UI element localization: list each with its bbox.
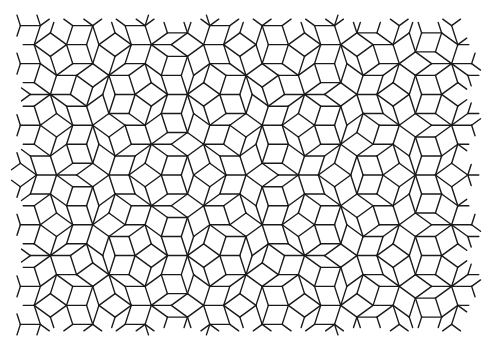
- rhombus-edge: [301, 317, 304, 327]
- rhombus-edge: [438, 317, 441, 327]
- rhombus-edge: [99, 33, 115, 45]
- rhombus-edge: [187, 305, 203, 317]
- rhombus-edge: [204, 286, 210, 305]
- rhombus-edge: [224, 206, 230, 225]
- rhombus-edge: [458, 261, 467, 267]
- rhombus-edge: [468, 237, 471, 247]
- rhombus-edge: [282, 163, 298, 175]
- rhombus-edge: [325, 94, 341, 106]
- rhombus-edge: [220, 75, 226, 94]
- rhombus-edge: [230, 113, 246, 125]
- rhombus-edge: [112, 317, 115, 327]
- rhombus-edge: [435, 113, 451, 125]
- rhombus-edge: [393, 83, 409, 95]
- rhombus-edge: [240, 156, 246, 175]
- rhombus-edge: [288, 33, 304, 45]
- rhombus-edge: [262, 324, 271, 330]
- rhombus-edge: [145, 286, 151, 305]
- rhombus-edge: [282, 305, 288, 324]
- rhombus-edge: [415, 125, 431, 137]
- rhombus-edge: [151, 294, 167, 306]
- rhombus-edge: [164, 317, 167, 327]
- rhombus-edge: [415, 298, 421, 317]
- rhombus-edge: [57, 275, 73, 287]
- rhombus-edge: [409, 94, 415, 113]
- rhombus-edge: [418, 22, 421, 32]
- rhombus-edge: [181, 237, 187, 256]
- rhombus-edge: [187, 294, 203, 306]
- rhombus-edge: [87, 106, 93, 125]
- rhombus-edge: [240, 256, 246, 275]
- rhombus-edge: [93, 286, 99, 305]
- rhombus-edge: [335, 286, 341, 305]
- rhombus-edge: [435, 75, 441, 94]
- rhombus-edge: [70, 244, 86, 256]
- rhombus-edge: [306, 324, 315, 330]
- rhombus-edge: [93, 163, 109, 175]
- rhombus-edge: [129, 225, 145, 237]
- rhombus-edge: [341, 144, 357, 156]
- rhombus-edge: [240, 45, 256, 57]
- rhombus-edge: [282, 144, 288, 163]
- rhombus-edge: [325, 256, 341, 268]
- rhombus-edge: [399, 275, 415, 287]
- rhombus-edge: [224, 194, 240, 206]
- rhombus-edge: [84, 324, 93, 330]
- rhombus-edge: [17, 314, 20, 324]
- rhombus-edge: [210, 113, 226, 125]
- rhombus-edge: [161, 175, 167, 194]
- rhombus-edge: [357, 194, 373, 206]
- rhombus-edge: [184, 22, 187, 32]
- rhombus-edge: [230, 225, 246, 237]
- rhombus-edge: [452, 175, 468, 187]
- rhombus-edge: [335, 125, 341, 144]
- rhombus-edge: [220, 237, 226, 256]
- rhombus-edge: [409, 298, 415, 317]
- rhombus-edge: [210, 324, 219, 330]
- rhombus-edge: [87, 305, 93, 324]
- rhombus-edge: [204, 305, 210, 324]
- rhombus-edge: [99, 294, 115, 306]
- rhombus-edge: [415, 194, 421, 213]
- rhombus-edge: [109, 175, 115, 194]
- rhombus-edge: [64, 324, 73, 330]
- rhombus-edge: [393, 244, 409, 256]
- rhombus-edge: [50, 22, 53, 32]
- rhombus-edge: [93, 305, 99, 324]
- rhombus-edge: [67, 286, 73, 305]
- rhombus-edge: [262, 275, 278, 287]
- rhombus-edge: [335, 106, 341, 125]
- rhombus-edge: [34, 106, 40, 125]
- rhombus-edge: [17, 276, 20, 286]
- rhombus-edge: [67, 144, 73, 163]
- rhombus-edge: [103, 94, 109, 113]
- rhombus-edge: [93, 45, 99, 64]
- rhombus-edge: [377, 317, 380, 327]
- rhombus-edge: [435, 275, 451, 287]
- rhombus-edge: [129, 64, 145, 76]
- rhombus-edge: [315, 225, 321, 244]
- rhombus-edge: [87, 187, 93, 206]
- rhombus-edge: [335, 26, 341, 45]
- rhombus-edge: [246, 94, 252, 113]
- rhombus-edge: [326, 324, 335, 330]
- rhombus-edge: [224, 125, 230, 144]
- rhombus-edge: [399, 125, 415, 137]
- rhombus-edge: [34, 267, 40, 286]
- rhombus-edge: [187, 156, 193, 175]
- rhombus-edge: [220, 94, 226, 113]
- rhombus-edge: [181, 275, 187, 294]
- rhombus-edge: [50, 33, 66, 45]
- rhombus-edge: [409, 317, 412, 327]
- rhombus-edge: [129, 94, 135, 113]
- rhombus-edge: [171, 132, 187, 144]
- rhombus-edge: [298, 113, 314, 125]
- rhombus-edge: [341, 244, 357, 256]
- rhombus-edge: [341, 33, 357, 45]
- rhombus-edge: [335, 305, 341, 324]
- rhombus-edge: [21, 88, 30, 94]
- rhombus-edge: [57, 175, 73, 187]
- rhombus-edge: [21, 94, 30, 100]
- rhombus-edge: [181, 113, 187, 132]
- rhombus-edge: [240, 33, 256, 45]
